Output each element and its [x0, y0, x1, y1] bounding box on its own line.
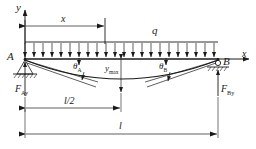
span-dimension-line [25, 97, 218, 138]
half-span-label: l/2 [64, 96, 75, 106]
support-b-label: B [223, 56, 230, 67]
theta-b-label: θB [159, 62, 167, 73]
theta-a-label: θA [73, 62, 81, 73]
reaction-b-subscript: By [227, 89, 234, 96]
reaction-force-a-label: FAy [15, 84, 28, 96]
x-dimension-label: x [61, 14, 65, 24]
ymax-label: ymax [105, 64, 119, 75]
x-axis-label: x [242, 49, 246, 59]
load-arrows [25, 43, 214, 57]
distributed-load [25, 42, 218, 57]
y-axis-label: y [16, 2, 21, 13]
reaction-a-subscript: Ay [21, 89, 28, 96]
theta-b-indicator [145, 58, 216, 87]
theta-a-subscript: A [77, 67, 81, 73]
ymax-subscript: max [109, 69, 119, 75]
span-label: l [119, 121, 122, 131]
diagram-canvas [0, 0, 256, 149]
support-a-label: A [7, 51, 14, 62]
theta-b-subscript: B [163, 67, 167, 73]
load-label: q [152, 25, 158, 36]
reaction-force-b-label: FBy [221, 84, 234, 96]
deflection-curve [25, 60, 218, 79]
beam-diagram: y x q x A B FAy FBy θA θB ymax l/2 l [0, 0, 256, 149]
